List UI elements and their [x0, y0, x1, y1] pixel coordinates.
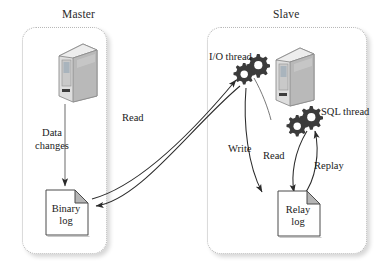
replay-label: Replay: [314, 160, 344, 172]
binary-log-line1: Binary: [52, 203, 81, 214]
data-changes-label: Data changes: [28, 126, 76, 152]
relay-log-line2: log: [291, 216, 304, 227]
relay-log-line1: Relay: [286, 204, 311, 215]
data-changes-line1: Data: [42, 127, 62, 138]
edge-read-right: [293, 131, 307, 192]
slave-server-icon: [272, 44, 316, 110]
edge-read-left: [92, 80, 236, 199]
sql-thread-gears-icon: [285, 104, 323, 138]
write-label: Write: [228, 143, 251, 155]
diagram-canvas: Master Slave: [0, 0, 388, 277]
data-changes-line2: changes: [35, 140, 69, 151]
sql-thread-label: SQL thread: [321, 106, 369, 118]
read-left-label: Read: [122, 112, 144, 124]
read-right-label: Read: [263, 150, 285, 162]
binary-log-line2: log: [59, 215, 72, 226]
edge-write: [245, 88, 262, 192]
binary-log-label: Binary log: [44, 203, 88, 226]
io-thread-label: I/O thread: [209, 51, 252, 63]
relay-log-label: Relay log: [276, 204, 320, 227]
master-server-icon: [55, 40, 99, 106]
